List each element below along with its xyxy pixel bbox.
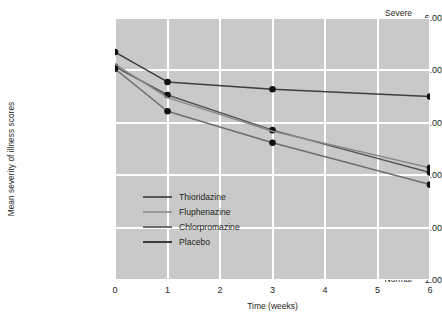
legend-label: Fluphenazine xyxy=(179,207,231,217)
x-axis-tick: 2 xyxy=(210,285,230,295)
legend-item: Placebo xyxy=(143,234,240,249)
legend-line-swatch xyxy=(143,226,172,228)
legend-label: Thioridazine xyxy=(179,192,226,202)
x-axis-tick: 1 xyxy=(158,285,178,295)
x-axis-tick: 6 xyxy=(420,285,440,295)
chart-legend: ThioridazineFluphenazineChlorpromazinePl… xyxy=(143,189,240,249)
data-point xyxy=(427,93,430,100)
x-axis-tick: 0 xyxy=(105,285,125,295)
x-axis-tick: 5 xyxy=(368,285,388,295)
legend-item: Chlorpromazine xyxy=(143,219,240,234)
legend-line-swatch xyxy=(143,241,172,243)
x-axis-tick: 4 xyxy=(315,285,335,295)
x-axis-title: Time (weeks) xyxy=(115,301,430,311)
legend-item: Fluphenazine xyxy=(143,204,240,219)
data-point xyxy=(427,165,430,172)
legend-item: Thioridazine xyxy=(143,189,240,204)
y-axis-title: Mean severity of illness scores xyxy=(0,0,22,318)
legend-label: Chlorpromazine xyxy=(179,222,240,232)
data-point xyxy=(269,139,276,146)
legend-line-swatch xyxy=(143,196,172,198)
legend-line-swatch xyxy=(143,211,172,213)
chart-figure: Mean severity of illness scores Severeil… xyxy=(0,0,442,318)
x-axis-tick: 3 xyxy=(263,285,283,295)
data-point xyxy=(427,181,430,188)
data-point xyxy=(269,86,276,93)
series-chlorpromazine xyxy=(115,66,430,188)
data-point xyxy=(164,79,171,86)
legend-label: Placebo xyxy=(179,237,210,247)
series-thioridazine xyxy=(115,63,430,175)
series-fluphenazine xyxy=(115,64,430,171)
data-point xyxy=(164,108,171,115)
